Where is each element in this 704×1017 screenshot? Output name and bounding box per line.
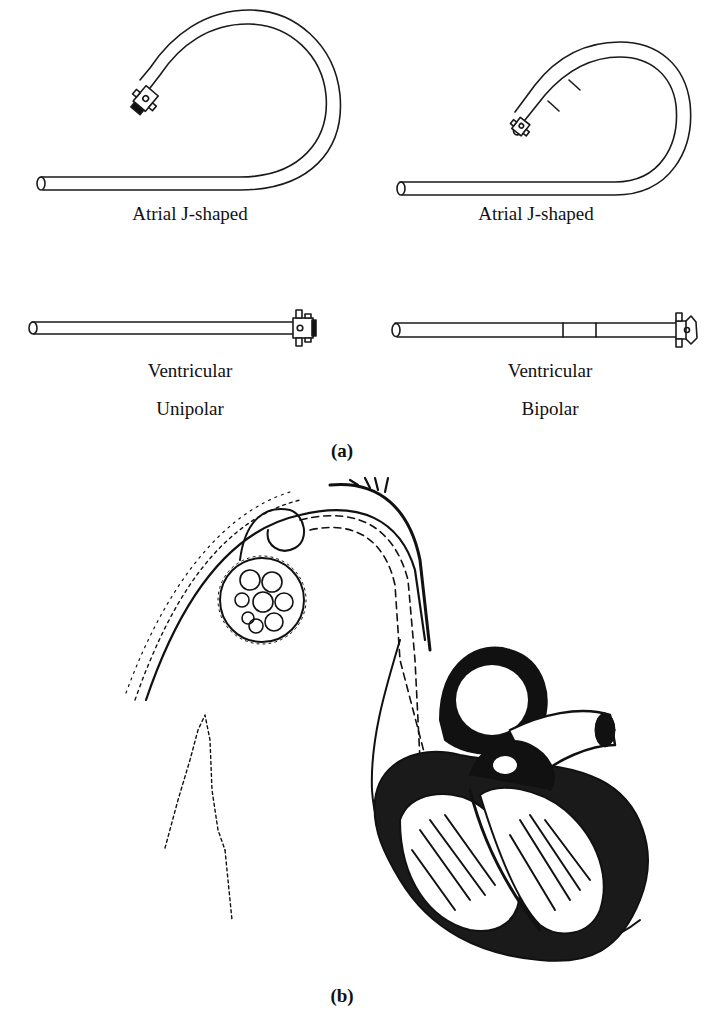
- caption-ventricular-bipolar-line2: Bipolar: [400, 398, 700, 420]
- caption-atrial-j-bipolar: Atrial J-shaped: [386, 203, 686, 225]
- caption-ventricular-bipolar-line1: Ventricular: [400, 360, 700, 382]
- panel-a-label: (a): [302, 440, 382, 462]
- ventricular-unipolar-lead-drawing: [29, 310, 316, 346]
- figure: Atrial J-shaped Atrial J-shaped Ventricu…: [0, 0, 704, 1017]
- panel-b-label: (b): [302, 985, 382, 1007]
- panel-a-drawings: [0, 0, 704, 1017]
- atrial-j-lead-unipolar-drawing: [37, 10, 340, 190]
- caption-ventricular-unipolar-line2: Unipolar: [40, 398, 340, 420]
- caption-ventricular-unipolar-line1: Ventricular: [40, 360, 340, 382]
- panel-b-illustration: [126, 478, 648, 961]
- atrial-j-lead-bipolar-drawing: [397, 42, 691, 195]
- ventricular-bipolar-lead-drawing: [392, 313, 697, 347]
- caption-atrial-j-unipolar: Atrial J-shaped: [40, 203, 340, 225]
